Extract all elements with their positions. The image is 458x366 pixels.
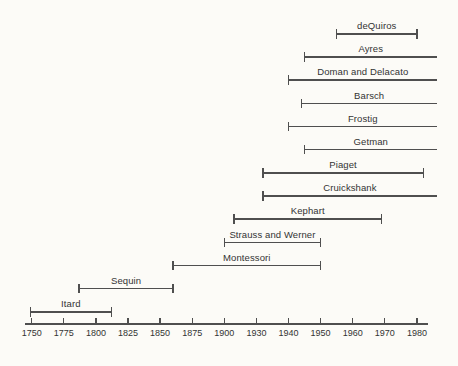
x-axis-tick <box>31 318 32 323</box>
x-axis-tick-label: 1930 <box>246 328 266 338</box>
timeline-bar <box>30 311 111 313</box>
x-axis-tick <box>256 318 257 323</box>
timeline-bar-cap-left <box>301 99 303 109</box>
timeline-bar-cap-left <box>233 214 235 224</box>
x-axis-tick <box>63 318 64 323</box>
timeline-bar-cap-left <box>304 145 306 155</box>
x-axis-line <box>25 323 428 325</box>
x-axis-tick <box>224 318 225 323</box>
x-axis-tick <box>159 318 160 323</box>
x-axis-tick-label: 1960 <box>343 328 363 338</box>
x-axis-tick-label: 1940 <box>278 328 298 338</box>
timeline-bar-cap-right <box>381 214 383 224</box>
x-axis-tick <box>320 318 321 323</box>
timeline-chart: deQuirosAyresDoman and DelacatoBarschFro… <box>0 0 458 366</box>
timeline-bar-label: Frostig <box>348 113 378 124</box>
x-axis-tick-label: 1800 <box>86 328 106 338</box>
timeline-bar-cap-right <box>111 307 113 317</box>
timeline-bar-cap-left <box>30 307 32 317</box>
timeline-bar-label: deQuiros <box>357 20 396 31</box>
timeline-bar <box>263 195 437 197</box>
timeline-bar-label: Getman <box>354 136 388 147</box>
x-axis-tick <box>288 318 289 323</box>
timeline-bar-cap-left <box>288 75 290 85</box>
x-axis-tick <box>384 318 385 323</box>
timeline-bar-cap-right <box>423 168 425 178</box>
x-axis-tick-label: 1950 <box>311 328 331 338</box>
timeline-bar-cap-left <box>262 191 264 201</box>
timeline-bar <box>224 242 320 244</box>
timeline-bar <box>289 126 438 128</box>
timeline-bar-cap-left <box>304 52 306 62</box>
timeline-bar-label: Sequin <box>111 275 141 286</box>
timeline-bar-label: Cruickshank <box>323 182 376 193</box>
timeline-bar <box>79 288 173 290</box>
timeline-bar-label: Strauss and Werner <box>229 229 315 240</box>
x-axis-tick-label: 1970 <box>375 328 395 338</box>
timeline-bar-cap-left <box>172 261 174 271</box>
x-axis-tick-label: 1850 <box>150 328 170 338</box>
timeline-bar-label: Montessori <box>223 252 270 263</box>
x-axis-tick-label: 1750 <box>22 328 42 338</box>
timeline-bar-label: Piaget <box>329 159 357 170</box>
timeline-bar-cap-left <box>288 122 290 132</box>
timeline-bar <box>305 56 437 58</box>
timeline-bar <box>337 33 417 35</box>
timeline-bar-label: Kephart <box>291 205 325 216</box>
x-axis-tick <box>95 318 96 323</box>
x-axis-tick-label: 1775 <box>54 328 74 338</box>
x-axis-tick-label: 1825 <box>118 328 138 338</box>
timeline-bar-cap-left <box>78 284 80 294</box>
timeline-bar <box>305 149 437 151</box>
timeline-bar-cap-left <box>224 238 226 248</box>
x-axis-tick <box>127 318 128 323</box>
x-axis-tick <box>416 318 417 323</box>
timeline-bar <box>289 79 438 81</box>
timeline-bar-cap-right <box>320 261 322 271</box>
x-axis-tick <box>352 318 353 323</box>
timeline-bar-label: Itard <box>61 298 81 309</box>
timeline-bar-label: Barsch <box>354 90 384 101</box>
timeline-bar <box>173 265 321 267</box>
timeline-bar-label: Ayres <box>358 43 383 54</box>
timeline-bar-label: Doman and Delacato <box>317 66 408 77</box>
timeline-bar-cap-right <box>416 29 418 39</box>
timeline-bar <box>301 103 437 105</box>
timeline-bar-cap-right <box>320 238 322 248</box>
x-axis-tick-label: 1875 <box>182 328 202 338</box>
x-axis-tick-label: 1980 <box>407 328 427 338</box>
timeline-bar-cap-right <box>172 284 174 294</box>
timeline-bar <box>234 218 382 220</box>
timeline-bar <box>263 172 424 174</box>
x-axis-tick-label: 1900 <box>214 328 234 338</box>
x-axis-tick <box>192 318 193 323</box>
timeline-bar-cap-left <box>336 29 338 39</box>
timeline-bar-cap-left <box>262 168 264 178</box>
